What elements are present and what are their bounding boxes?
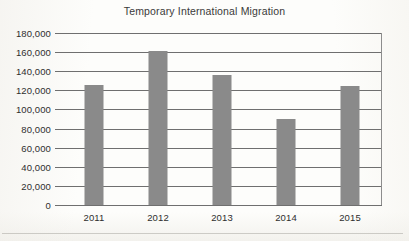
chart-title: Temporary International Migration [0,5,409,17]
bar-chart: Temporary International Migration 180,00… [0,0,409,241]
x-axis-tick-label: 2015 [339,212,361,223]
y-axis-tick [55,148,62,149]
y-axis-tick [55,186,62,187]
y-axis-tick-label: 180,000 [16,28,51,39]
y-axis-tick [55,33,62,34]
page-edge-artifact [2,233,403,234]
y-axis-tick-label: 160,000 [16,47,51,58]
x-axis-tick-label: 2014 [275,212,297,223]
bar [85,85,104,205]
plot-right-edge [381,33,382,205]
y-axis-tick-label: 20,000 [21,180,51,191]
y-axis-tick-label: 120,000 [16,85,51,96]
bar [213,75,232,205]
y-axis-tick-label: 40,000 [21,161,51,172]
x-axis-tick-label: 2013 [211,212,233,223]
x-axis-tick-label: 2011 [84,212,105,223]
gridline [62,71,382,72]
gridline [62,52,382,53]
y-axis-tick [55,71,62,72]
y-axis-tick-label: 0 [46,200,51,211]
y-axis-tick [55,90,62,91]
gridline [62,33,382,34]
y-axis-tick-label: 60,000 [21,142,51,153]
gridline [62,205,382,206]
bar [277,119,296,205]
x-axis-tick-label: 2012 [147,212,169,223]
y-axis-tick-label: 140,000 [16,66,51,77]
y-axis-tick [55,205,62,206]
y-axis-tick [55,109,62,110]
bar [341,86,360,205]
y-axis-tick-label: 100,000 [16,104,51,115]
plot-area: 180,000160,000140,000120,000100,00080,00… [62,33,382,205]
y-axis-tick [55,129,62,130]
y-axis-tick [55,52,62,53]
bar [149,51,168,205]
y-axis-tick [55,167,62,168]
y-axis-tick-label: 80,000 [21,123,51,134]
